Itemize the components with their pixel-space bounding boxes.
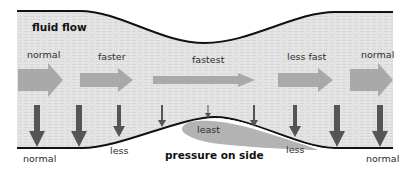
pressure-label-normal-left: normal xyxy=(23,153,56,164)
diagram-title: fluid flow xyxy=(32,21,87,33)
pressure-label-least: least xyxy=(197,124,220,135)
flow-label-less-fast: less fast xyxy=(287,51,327,62)
flow-label-normal-left: normal xyxy=(27,49,60,60)
pressure-label-less-left: less xyxy=(110,145,128,156)
pressure-label-less-right: less xyxy=(286,144,304,155)
flow-label-normal-right: normal xyxy=(361,49,394,60)
flow-label-faster: faster xyxy=(98,51,126,62)
venturi-diagram: fluid flow normal faster fastest less fa… xyxy=(0,0,415,175)
flow-label-fastest: fastest xyxy=(192,54,225,65)
pressure-caption: pressure on side xyxy=(165,149,264,161)
pressure-label-normal-right: normal xyxy=(366,153,399,164)
